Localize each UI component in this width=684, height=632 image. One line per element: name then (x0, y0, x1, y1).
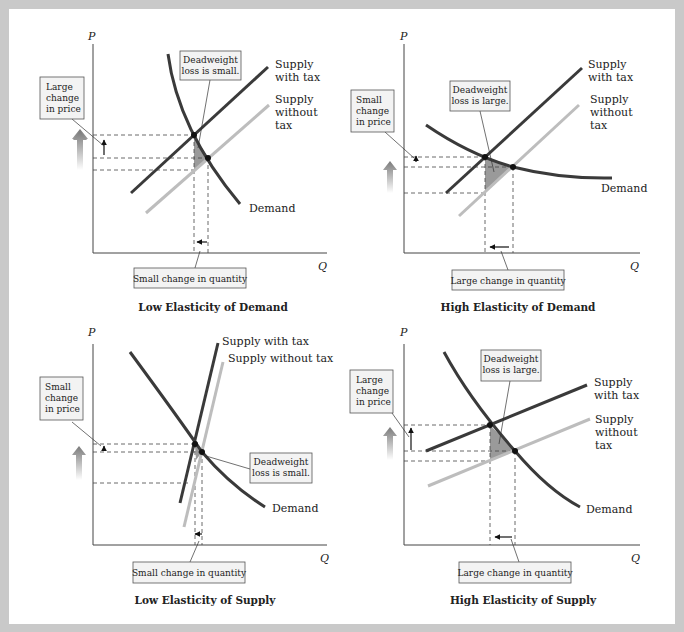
panel-title: High Elasticity of Demand (441, 301, 597, 313)
panel-low-elasticity-supply: P Q Supply with tax Supply without tax D… (40, 326, 334, 606)
panel-title: Low Elasticity of Supply (135, 594, 277, 606)
price-increase-icon (383, 161, 397, 193)
dashed-guides (93, 135, 208, 253)
q-axis-label: Q (318, 260, 327, 273)
q-axis-label: Q (320, 552, 329, 565)
svg-text:Large change in quantity: Large change in quantity (458, 568, 574, 578)
panel-title: High Elasticity of Supply (450, 594, 597, 606)
panel-low-elasticity-demand: P Q Supplywith tax Supplywithouttax Dema… (40, 30, 327, 313)
supply-without-tax-curve (428, 419, 590, 486)
panel-high-elasticity-supply: P Q Supplywith tax Supplywithouttax Dema… (350, 326, 640, 606)
supply-with-tax-curve (131, 67, 268, 193)
svg-text:Deadweightloss is large.: Deadweightloss is large. (451, 85, 508, 106)
svg-text:Deadweightloss is large.: Deadweightloss is large. (482, 354, 539, 375)
elasticity-diagrams: P Q Supplywith tax Supplywithouttax Dema… (0, 0, 684, 632)
supply-with-tax-label: Supply with tax (222, 335, 310, 348)
demand-curve (426, 125, 612, 178)
supply-without-tax-curve (184, 362, 223, 527)
demand-label: Demand (249, 202, 295, 215)
p-axis-label: P (399, 30, 408, 43)
demand-label: Demand (586, 503, 632, 516)
p-axis-label: P (399, 326, 408, 339)
svg-text:Deadweightloss is small.: Deadweightloss is small. (182, 55, 240, 76)
q-axis-label: Q (630, 260, 639, 273)
supply-without-tax-label: Supplywithouttax (590, 93, 633, 132)
supply-with-tax-label: Supplywith tax (588, 58, 634, 84)
panel-title: Low Elasticity of Demand (138, 301, 288, 313)
supply-without-tax-label: Supply without tax (228, 352, 334, 365)
price-increase-icon (383, 427, 397, 460)
supply-without-tax-curve (459, 105, 579, 216)
supply-with-tax-label: Supplywith tax (275, 58, 321, 84)
panel-high-elasticity-demand: P Q Supplywith tax Supplywithouttax Dema… (351, 30, 647, 313)
svg-text:Deadweightloss is small.: Deadweightloss is small. (252, 457, 310, 478)
svg-text:Large change in quantity: Large change in quantity (451, 276, 567, 286)
supply-without-tax-label: Supplywithouttax (595, 413, 638, 452)
demand-label: Demand (272, 502, 318, 515)
p-axis-label: P (87, 30, 96, 43)
supply-without-tax-label: Supplywithouttax (275, 93, 318, 132)
supply-with-tax-curve (180, 343, 218, 503)
demand-label: Demand (601, 182, 647, 195)
svg-text:Small change in quantity: Small change in quantity (132, 568, 247, 578)
supply-with-tax-label: Supplywith tax (594, 376, 640, 402)
q-axis-label: Q (631, 552, 640, 565)
svg-text:Small change in quantity: Small change in quantity (133, 274, 248, 284)
price-increase-icon (72, 446, 86, 480)
p-axis-label: P (87, 326, 96, 339)
